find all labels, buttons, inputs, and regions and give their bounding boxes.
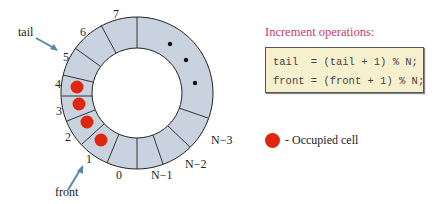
slot-label-2: 2: [65, 130, 71, 144]
code-box: tail = (tail + 1) % N; front = (front + …: [265, 47, 424, 93]
slot-label-5: 5: [63, 50, 69, 64]
slot-label-n-2: N−2: [185, 157, 206, 171]
slot-label-n-3: N−3: [211, 133, 232, 147]
operations-title: Increment operations:: [265, 25, 374, 40]
occupied-dot-icon: [265, 133, 280, 148]
code-line-tail: tail = (tail + 1) % N;: [273, 56, 418, 68]
front-label: front: [55, 185, 79, 199]
occupied-cell-4: [71, 81, 84, 94]
tail-label: tail: [18, 25, 34, 39]
slot-label-1: 1: [86, 152, 92, 166]
slot-label-7: 7: [113, 7, 119, 21]
tail-arrow: [36, 38, 58, 51]
slot-label-n-1: N−1: [151, 168, 172, 182]
legend: - Occupied cell: [265, 133, 358, 148]
code-line-front: front = (front + 1) % N;: [273, 75, 424, 87]
legend-label: - Occupied cell: [285, 133, 358, 148]
occupied-cell-1: [95, 134, 108, 147]
occupied-cell-2: [81, 116, 94, 129]
occupied-cell-3: [73, 98, 86, 111]
slot-label-4: 4: [55, 77, 61, 91]
slot-label-3: 3: [56, 104, 62, 118]
slot-label-0: 0: [116, 168, 122, 182]
circular-buffer-diagram: tail front 0 1 2 3 4 5 6 7 N−3 N−2 N−1: [0, 0, 444, 204]
slot-label-6: 6: [80, 25, 86, 39]
